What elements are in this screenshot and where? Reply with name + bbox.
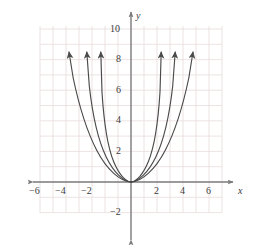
y-tick-label-4: 4: [116, 114, 121, 125]
x-tick-label-minus6: −6: [29, 185, 40, 196]
y-tick-label-2: 2: [116, 145, 121, 156]
y-tick-label-8: 8: [116, 53, 121, 64]
x-tick-label-6: 6: [206, 185, 211, 196]
x-axis-label: x: [238, 185, 242, 196]
curve-a050-left: [69, 52, 131, 182]
parabola-family-chart: −6 −4 −2 2 4 6 10 8 6 4 2 −2 y x: [0, 0, 259, 248]
axis-lines: [33, 12, 233, 240]
y-tick-label-minus2: −2: [110, 206, 121, 217]
y-tick-label-10: 10: [110, 23, 120, 34]
plot-area: [0, 0, 259, 248]
x-tick-label-2: 2: [154, 185, 159, 196]
curve-a100-left: [87, 52, 131, 182]
curve-a050-right: [131, 52, 193, 182]
curve-a100-right: [131, 52, 175, 182]
x-tick-label-4: 4: [180, 185, 185, 196]
y-tick-label-6: 6: [116, 84, 121, 95]
x-tick-label-minus2: −2: [81, 185, 92, 196]
x-tick-label-minus4: −4: [55, 185, 66, 196]
y-axis-label: y: [136, 10, 140, 21]
